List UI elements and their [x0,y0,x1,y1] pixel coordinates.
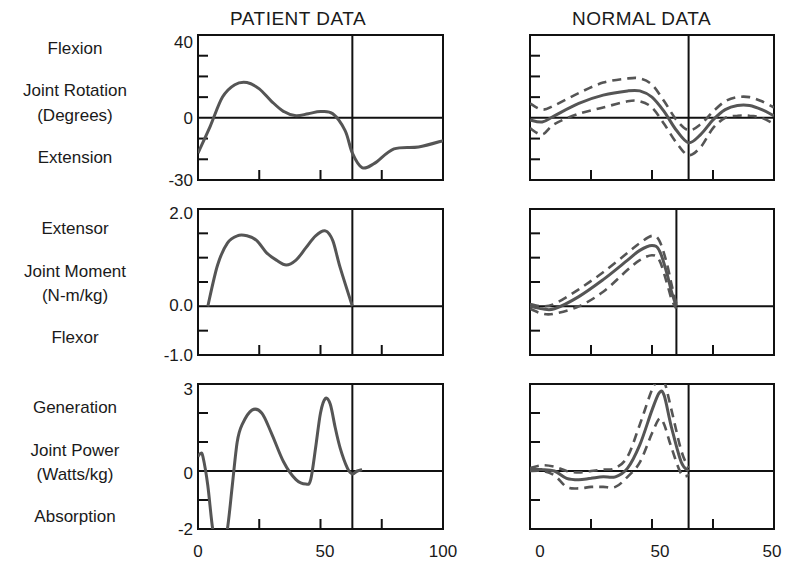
xtick-patient-50: 50 [316,542,335,561]
patient-moment-plot [198,209,443,355]
plot-frame [530,35,774,180]
ytick-moment-min: -1.0 [164,346,193,365]
ytick-power-max: 3 [184,380,193,399]
curve-mean [530,391,689,480]
plot-frame [198,35,443,180]
xtick-patient-100: 100 [429,542,457,561]
normal-rotation-plot [530,35,774,180]
ytick-rotation-max: 40 [174,33,193,52]
xtick-patient-0: 0 [193,542,202,561]
plot-frame [530,209,774,355]
plot-frame [530,384,774,529]
ytick-rotation-min: -30 [168,171,193,190]
ytick-power-zero: 0 [184,464,193,483]
xtick-normal-50: 50 [651,542,670,561]
xtick-normal-0: 0 [535,542,544,561]
normal-power-plot [530,377,774,529]
curve-patient [208,231,353,307]
patient-power-plot [198,384,443,549]
ytick-power-min: -2 [178,520,193,539]
normal-moment-plot [530,209,774,355]
ytick-rotation-zero: 0 [184,109,193,128]
curve-patient [198,82,443,168]
patient-rotation-plot [198,35,443,180]
ytick-moment-max: 2.0 [169,204,193,223]
xtick-normal-end: 50 [763,542,782,561]
curve-patient [198,398,362,548]
ytick-moment-zero: 0.0 [169,296,193,315]
chart-canvas: 40 0 -30 2.0 0.0 -1.0 3 0 -2 0 50 100 0 … [0,0,786,570]
